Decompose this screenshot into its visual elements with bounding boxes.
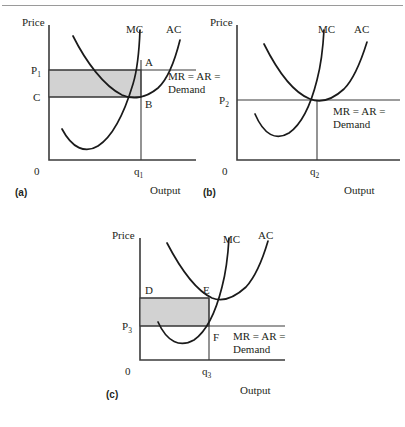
panel-a-tag: (a) xyxy=(15,187,27,198)
panel-a-mc-label: MC xyxy=(126,23,143,35)
panel-c-ac-curve xyxy=(167,241,268,300)
panel-b-price-axis-label: Price xyxy=(210,16,233,28)
panel-b-tag: (b) xyxy=(203,187,216,198)
panel-b-ac-curve xyxy=(264,42,367,101)
panel-a-price-axis-label: Price xyxy=(22,16,45,28)
panel-a-ac-label: AC xyxy=(166,23,181,35)
panel-a-quantity-tick-q1: q1 xyxy=(134,165,144,180)
panel-b-axes xyxy=(237,25,400,160)
panel-c-loss-rectangle xyxy=(140,298,209,326)
panel-a-demand-label-line2: Demand xyxy=(168,83,206,95)
panel-a-output-axis-label: Output xyxy=(150,184,181,196)
panel-c-tag: (c) xyxy=(106,389,118,400)
panel-c-point-e-label: E xyxy=(203,284,210,296)
panel-a-origin-label: 0 xyxy=(34,165,40,177)
figure-root: MC AC A B Price P1 C 0 q1 Output MR = AR… xyxy=(0,0,405,427)
panel-c-output-axis-label: Output xyxy=(240,384,271,396)
panel-c-demand-label-line2: Demand xyxy=(233,343,271,355)
panel-c-origin-label: 0 xyxy=(125,365,131,377)
panel-a-price-tick-p1: P1 xyxy=(31,64,41,79)
panel-c-point-f-label: F xyxy=(213,331,219,343)
panel-c-demand-label-line1: MR = AR = xyxy=(233,330,285,342)
panel-c-point-d-label: D xyxy=(145,284,153,296)
panel-b-demand-label-line1: MR = AR = xyxy=(333,105,385,117)
panel-b-ac-label: AC xyxy=(354,23,369,35)
panel-c-mc-label: MC xyxy=(223,233,240,245)
panel-b: MC AC Price P2 0 q2 Output MR = AR = Dem… xyxy=(203,16,400,198)
panel-b-price-tick-p2: P2 xyxy=(219,94,229,109)
panel-b-quantity-tick-q2: q2 xyxy=(310,165,320,180)
panel-a-profit-rectangle xyxy=(49,70,141,97)
panel-a-point-a-label: A xyxy=(145,56,153,68)
panel-b-output-axis-label: Output xyxy=(344,184,375,196)
panel-c-quantity-tick-q3: q3 xyxy=(202,365,212,380)
panel-c-price-axis-label: Price xyxy=(112,229,135,241)
panel-a-demand-label-line1: MR = AR = xyxy=(168,70,220,82)
panel-c-ac-label: AC xyxy=(258,229,273,241)
panel-c-price-tick-p3: P3 xyxy=(122,320,132,335)
economics-figure: MC AC A B Price P1 C 0 q1 Output MR = AR… xyxy=(0,0,405,427)
panel-b-origin-label: 0 xyxy=(222,165,228,177)
panel-c: MC AC Price D E F P3 0 q3 Output MR = AR… xyxy=(106,229,285,400)
panel-b-mc-label: MC xyxy=(318,23,335,35)
panel-a-point-b-label: B xyxy=(145,98,152,110)
panel-a-price-tick-c: C xyxy=(33,91,40,103)
panel-b-demand-label-line2: Demand xyxy=(333,118,371,130)
panel-c-mc-curve xyxy=(158,238,229,343)
panel-a: MC AC A B Price P1 C 0 q1 Output MR = AR… xyxy=(15,16,220,198)
